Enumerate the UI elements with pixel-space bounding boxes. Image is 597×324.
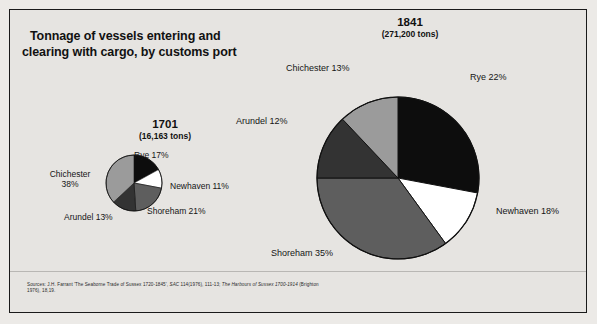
sources-note: Sources: J.H. Farrant 'The Seaborne Trad… [27, 282, 327, 294]
label-rye-1841: Rye 22% [470, 72, 507, 82]
chart-1701-year: 1701 [105, 118, 225, 131]
page-title: Tonnage of vessels entering and clearing… [30, 28, 290, 60]
slice-rye-1841 [398, 97, 479, 193]
label-chichester-1841: Chichester 13% [286, 63, 350, 73]
sources-italic-sac: SAC [169, 282, 179, 287]
label-newhaven-1841: Newhaven 18% [496, 206, 559, 216]
chart-1701-tons: (16,163 tons) [105, 131, 225, 142]
label-chichester-1701-line1: Chichester [50, 169, 91, 179]
label-newhaven-1701: Newhaven 11% [170, 181, 229, 191]
sources-work1: 'The Seaborne Trade of Sussex 1720-1845'… [74, 282, 169, 287]
label-arundel-1841: Arundel 12% [236, 116, 288, 126]
label-chichester-1701-line2: 38% [61, 179, 78, 189]
chart-1841-tons: (271,200 tons) [350, 29, 470, 40]
chart-1841-year: 1841 [350, 16, 470, 29]
sources-mid: 114(1976), 111-13; [179, 282, 222, 287]
sources-prefix: Sources: J.H. Farrant [27, 282, 74, 287]
pie-chart-1841 [315, 95, 481, 261]
label-shoreham-1701: Shoreham 21% [147, 206, 206, 216]
label-shoreham-1841: Shoreham 35% [271, 248, 333, 258]
sources-italic-harbours: The Harbours of Sussex 1700-1914 [222, 282, 298, 287]
label-arundel-1701: Arundel 13% [64, 212, 113, 222]
label-chichester-1701: Chichester 38% [41, 169, 99, 189]
chart-1701-heading: 1701 (16,163 tons) [105, 118, 225, 142]
figure-canvas: Tonnage of vessels entering and clearing… [0, 0, 597, 324]
chart-1841-heading: 1841 (271,200 tons) [350, 16, 470, 40]
title-line-1: Tonnage of vessels entering and [30, 29, 220, 43]
title-line-2: clearing with cargo, by customs port [22, 44, 290, 60]
pie-chart-1701 [104, 153, 164, 213]
source-divider [10, 271, 586, 272]
label-rye-1701: Rye 17% [134, 150, 169, 160]
